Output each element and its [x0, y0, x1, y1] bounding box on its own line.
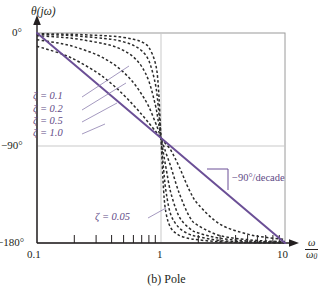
x-tick-1: 1	[157, 248, 163, 260]
x-axis-title: ω ω0	[305, 238, 318, 261]
slope-annotation: −90°/decade	[232, 172, 285, 183]
zeta-label-0-5: ζ = 0.5	[33, 115, 63, 126]
x-tick-10: 10	[277, 248, 288, 260]
y-axis-title: θ(jω)	[31, 5, 56, 17]
bode-phase-figure: θ(jω) 0° −90° −180° 0.1 1 10 ω ω0 ζ = 0.…	[0, 0, 333, 298]
x-tick-0-1: 0.1	[27, 248, 41, 260]
zeta-label-0-1: ζ = 0.1	[33, 90, 63, 101]
y-tick-0: 0°	[12, 26, 22, 38]
zeta-label-1-0: ζ = 1.0	[33, 127, 63, 138]
x-axis-title-numerator: ω	[305, 238, 318, 249]
y-tick-minus90: −90°	[1, 139, 23, 151]
zeta-label-0-2: ζ = 0.2	[33, 103, 63, 114]
x-axis-title-denominator-subscript: 0	[313, 252, 317, 261]
figure-caption: (b) Pole	[0, 272, 333, 287]
zeta-label-0-05: ζ = 0.05	[95, 211, 130, 222]
y-tick-minus180: −180°	[0, 236, 24, 248]
x-axis-title-denominator: ω0	[305, 249, 318, 261]
